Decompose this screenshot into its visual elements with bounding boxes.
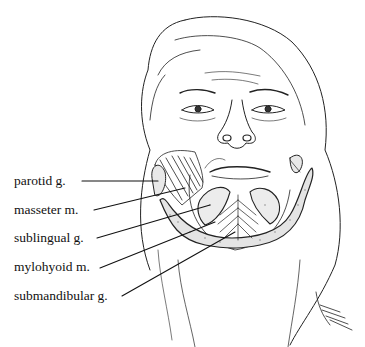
anatomy-diagram: parotid g. masseter m. sublingual g. myl… bbox=[0, 0, 365, 347]
label-parotid-gland: parotid g. bbox=[14, 174, 66, 188]
label-sublingual-gland: sublingual g. bbox=[14, 231, 84, 245]
label-mylohyoid-muscle: mylohyoid m. bbox=[14, 260, 90, 274]
label-submandibular-gland: submandibular g. bbox=[14, 289, 108, 303]
label-masseter-muscle: masseter m. bbox=[14, 203, 78, 217]
